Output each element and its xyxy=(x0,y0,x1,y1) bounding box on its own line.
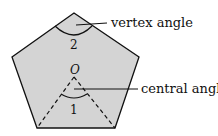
angle-2-label: 2 xyxy=(70,38,78,52)
vertex-angle-label: vertex angle xyxy=(110,15,193,30)
angle-1-label: 1 xyxy=(70,103,78,117)
central-angle-label: central angle xyxy=(141,81,218,96)
center-label: O xyxy=(70,63,80,77)
pentagon-diagram: vertex angle central angle 2 1 O xyxy=(0,0,218,136)
